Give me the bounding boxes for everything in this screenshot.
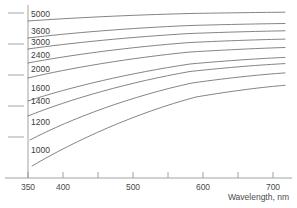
chart-container: 350400500600700 500036003000240020001600… [0, 0, 297, 208]
curve-label-group: 500036003000240020001600140012001000 [31, 9, 50, 155]
y-axis-ticks [8, 13, 24, 137]
curve-label: 3000 [31, 37, 50, 47]
curve-label: 1600 [31, 83, 50, 93]
data-curve [28, 48, 285, 79]
curve-label: 2000 [31, 64, 50, 74]
x-tick-label: 500 [126, 182, 140, 192]
curve-label: 3600 [31, 26, 50, 36]
curve-label: 1400 [31, 96, 50, 106]
line-chart: 350400500600700 500036003000240020001600… [0, 0, 297, 208]
x-tick-label: 400 [56, 182, 70, 192]
data-curve [30, 73, 285, 140]
data-curve [28, 12, 285, 21]
x-tick-label: 700 [266, 182, 280, 192]
curve-label: 2400 [31, 50, 50, 60]
x-axis-title: Wavelength, nm [228, 192, 289, 202]
curve-group [28, 12, 285, 166]
curve-label: 1200 [31, 117, 50, 127]
x-tick-label: 350 [21, 182, 35, 192]
curve-label: 5000 [31, 9, 50, 19]
curve-label: 1000 [31, 145, 50, 155]
data-curve [28, 57, 285, 101]
x-axis-ticks: 350400500600700 [21, 172, 280, 192]
data-curve [32, 85, 285, 166]
x-tick-label: 600 [196, 182, 210, 192]
